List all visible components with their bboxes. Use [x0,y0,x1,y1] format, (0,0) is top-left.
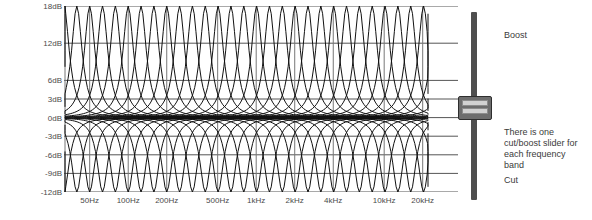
x-tick-label: 4kHz [324,196,342,206]
boost-curve [126,6,285,117]
boost-curve [164,6,323,117]
boost-curve [280,6,428,117]
boost-curve [242,6,401,117]
boost-curve [100,6,259,117]
y-tick-label: 18dB [43,2,62,11]
x-axis: 50Hz100Hz200Hz500Hz1kHz2kHz4kHz10kHz20kH… [0,196,592,212]
boost-curve [306,6,428,117]
boost-curve [203,6,362,117]
cut-label: Cut [504,175,518,186]
boost-curve [190,6,349,117]
boost-curve [65,6,143,117]
y-tick-label: 12dB [43,39,62,48]
equalizer-response-figure: 18dB12dB6dB3dB0dB-3dB-6dB-9dB-12dB 50Hz1… [0,0,592,220]
x-tick-label: 10kHz [373,196,396,206]
x-tick-label: 1kHz [247,196,265,206]
x-tick-label: 200Hz [155,196,178,206]
x-tick-label: 500Hz [206,196,229,206]
y-tick-label: 6dB [48,76,62,85]
y-axis: 18dB12dB6dB3dB0dB-3dB-6dB-9dB-12dB [0,0,62,220]
boost-curve [113,6,272,117]
y-tick-label: 3dB [48,95,62,104]
boost-curve [229,6,388,117]
x-tick-label: 20kHz [411,196,434,206]
cut-boost-slider[interactable] [462,12,488,200]
boost-curve [152,6,311,117]
boost-curve [75,6,234,117]
plot-area [64,6,458,192]
slider-handle-grip-bar [462,108,488,114]
y-tick-label: -6dB [45,151,62,160]
y-tick-label: -9dB [45,169,62,178]
response-curves-svg [64,6,458,192]
slider-handle[interactable] [458,96,492,120]
x-tick-label: 100Hz [117,196,140,206]
boost-curve [319,6,428,117]
boost-curve [65,6,220,117]
y-tick-label: -3dB [45,132,62,141]
boost-curve [65,6,169,117]
x-tick-label: 50Hz [80,196,99,206]
boost-curve [267,6,426,117]
y-tick-label: 0dB [48,114,62,123]
slider-explanation-note: There is one cut/boost slider for each f… [504,127,590,171]
slider-handle-grip-bar [462,100,488,106]
boost-curve [65,6,195,117]
x-tick-label: 2kHz [286,196,304,206]
boost-label: Boost [504,30,527,41]
